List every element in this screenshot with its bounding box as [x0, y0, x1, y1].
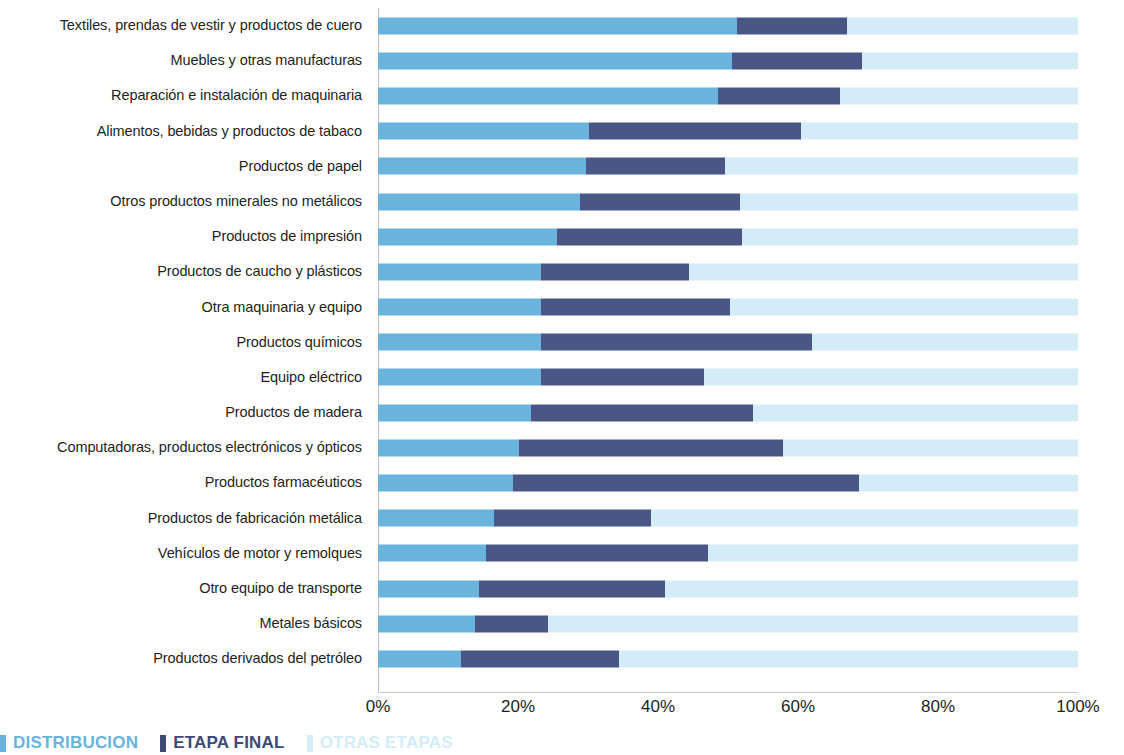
stacked-bar	[378, 369, 1078, 386]
legend-label: DISTRIBUCION	[13, 733, 138, 753]
bar-segment-etapa-final	[541, 334, 812, 351]
bar-segment-distribucion	[378, 193, 580, 210]
stacked-bar	[378, 475, 1078, 492]
bar-segment-etapa-final	[586, 158, 725, 175]
bar-segment-otras-etapas	[812, 334, 1078, 351]
bar-segment-etapa-final	[541, 263, 689, 280]
bar-segment-otras-etapas	[725, 158, 1078, 175]
stacked-bar	[378, 299, 1078, 316]
category-label: Productos derivados del petróleo	[0, 641, 370, 676]
bar-segment-otras-etapas	[783, 439, 1078, 456]
bar-track	[378, 606, 1078, 641]
bar-segment-etapa-final	[531, 404, 753, 421]
x-axis-ticks: 0%20%40%60%80%100%	[0, 697, 1124, 723]
bar-segment-otras-etapas	[704, 369, 1078, 386]
legend-item[interactable]: DISTRIBUCION	[0, 733, 138, 753]
bar-segment-otras-etapas	[689, 263, 1078, 280]
bar-segment-etapa-final	[513, 475, 859, 492]
stacked-bar-chart: Textiles, prendas de vestir y productos …	[0, 0, 1124, 755]
chart-row: Productos de papel	[0, 149, 1124, 184]
bar-segment-etapa-final	[732, 52, 862, 69]
stacked-bar	[378, 580, 1078, 597]
bar-track	[378, 325, 1078, 360]
bar-segment-etapa-final	[541, 299, 730, 316]
category-label: Muebles y otras manufacturas	[0, 43, 370, 78]
bar-segment-otras-etapas	[847, 17, 1078, 34]
bar-track	[378, 43, 1078, 78]
stacked-bar	[378, 650, 1078, 667]
stacked-bar	[378, 228, 1078, 245]
bar-segment-distribucion	[378, 580, 479, 597]
bar-segment-otras-etapas	[740, 193, 1078, 210]
bar-track	[378, 465, 1078, 500]
category-label: Reparación e instalación de maquinaria	[0, 78, 370, 113]
bar-track	[378, 184, 1078, 219]
chart-row: Productos de madera	[0, 395, 1124, 430]
bar-track	[378, 641, 1078, 676]
category-label: Otro equipo de transporte	[0, 571, 370, 606]
bar-track	[378, 78, 1078, 113]
x-axis-line	[378, 692, 1078, 693]
legend-swatch-icon	[307, 735, 313, 752]
bar-track	[378, 254, 1078, 289]
category-label: Productos farmacéuticos	[0, 465, 370, 500]
bar-segment-distribucion	[378, 228, 557, 245]
bar-segment-otras-etapas	[548, 615, 1078, 632]
chart-row: Muebles y otras manufacturas	[0, 43, 1124, 78]
bar-segment-etapa-final	[479, 580, 665, 597]
chart-row: Reparación e instalación de maquinaria	[0, 78, 1124, 113]
stacked-bar	[378, 87, 1078, 104]
chart-row: Alimentos, bebidas y productos de tabaco	[0, 114, 1124, 149]
stacked-bar	[378, 158, 1078, 175]
bar-track	[378, 571, 1078, 606]
category-label: Productos de impresión	[0, 219, 370, 254]
stacked-bar	[378, 615, 1078, 632]
bar-segment-distribucion	[378, 650, 461, 667]
bar-segment-etapa-final	[519, 439, 783, 456]
chart-legend: DISTRIBUCIONETAPA FINALOTRAS ETAPAS	[0, 731, 475, 755]
legend-label: OTRAS ETAPAS	[320, 733, 453, 753]
bar-segment-etapa-final	[486, 545, 708, 562]
bar-segment-otras-etapas	[742, 228, 1078, 245]
bar-track	[378, 536, 1078, 571]
chart-row: Productos de impresión	[0, 219, 1124, 254]
category-label: Equipo eléctrico	[0, 360, 370, 395]
bar-track	[378, 114, 1078, 149]
bar-segment-otras-etapas	[801, 123, 1078, 140]
legend-item[interactable]: ETAPA FINAL	[160, 733, 284, 753]
category-label: Computadoras, productos electrónicos y ó…	[0, 430, 370, 465]
bar-segment-distribucion	[378, 510, 494, 527]
bar-segment-etapa-final	[557, 228, 742, 245]
stacked-bar	[378, 123, 1078, 140]
chart-row: Otra maquinaria y equipo	[0, 290, 1124, 325]
bar-segment-otras-etapas	[651, 510, 1078, 527]
x-tick-label: 80%	[921, 697, 955, 717]
bar-rows: Textiles, prendas de vestir y productos …	[0, 8, 1124, 677]
bar-segment-distribucion	[378, 52, 732, 69]
category-label: Productos químicos	[0, 325, 370, 360]
bar-segment-etapa-final	[718, 87, 840, 104]
category-label: Productos de fabricación metálica	[0, 501, 370, 536]
legend-item[interactable]: OTRAS ETAPAS	[307, 733, 453, 753]
category-label: Productos de papel	[0, 149, 370, 184]
chart-row: Equipo eléctrico	[0, 360, 1124, 395]
bar-segment-otras-etapas	[665, 580, 1078, 597]
bar-track	[378, 360, 1078, 395]
bar-segment-distribucion	[378, 17, 737, 34]
category-label: Productos de madera	[0, 395, 370, 430]
bar-segment-distribucion	[378, 369, 541, 386]
stacked-bar	[378, 263, 1078, 280]
bar-track	[378, 219, 1078, 254]
bar-segment-distribucion	[378, 263, 541, 280]
bar-segment-etapa-final	[461, 650, 619, 667]
stacked-bar	[378, 52, 1078, 69]
stacked-bar	[378, 439, 1078, 456]
bar-track	[378, 430, 1078, 465]
bar-segment-distribucion	[378, 158, 586, 175]
bar-segment-otras-etapas	[708, 545, 1078, 562]
x-tick-label: 0%	[366, 697, 391, 717]
stacked-bar	[378, 545, 1078, 562]
bar-segment-etapa-final	[580, 193, 740, 210]
bar-track	[378, 395, 1078, 430]
bar-track	[378, 8, 1078, 43]
